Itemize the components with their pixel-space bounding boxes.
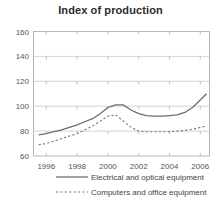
gridlines-group: [34, 56, 210, 131]
y-axis-tick-labels: 6080100120140160: [16, 28, 30, 162]
chart-container: Index of production 6080100120140160 199…: [0, 0, 221, 207]
x-axis-tick-label: 1996: [37, 162, 55, 171]
y-axis-tick-label: 80: [20, 127, 29, 136]
x-axis-tick-label: 2002: [130, 162, 148, 171]
y-axis-tick-label: 120: [16, 77, 30, 86]
y-axis-tick-label: 160: [16, 28, 30, 37]
x-axis-tick-label: 2004: [161, 162, 179, 171]
x-axis-tick-label: 1998: [68, 162, 86, 171]
series-line-electrical-optical-equipment: [39, 94, 207, 135]
x-axis-tick-label: 2000: [99, 162, 117, 171]
y-axis-tick-label: 140: [16, 52, 30, 61]
x-axis-tick-marks: [46, 32, 200, 157]
y-axis-tick-label: 100: [16, 102, 30, 111]
index-of-production-line-chart: 6080100120140160 19961998200020022004200…: [0, 0, 221, 207]
legend-label: Computers and office equipment: [91, 188, 207, 197]
x-axis-tick-labels: 199619982000200220042006: [37, 162, 209, 171]
legend-label: Electrical and optical equipment: [91, 173, 205, 182]
plot-frame: [34, 32, 210, 157]
chart-legend: Electrical and optical equipmentComputer…: [56, 173, 207, 197]
y-axis-tick-label: 60: [20, 152, 29, 161]
data-series-group: [39, 94, 207, 145]
x-axis-tick-label: 2006: [191, 162, 209, 171]
series-line-computers-office-equipment: [39, 115, 207, 145]
